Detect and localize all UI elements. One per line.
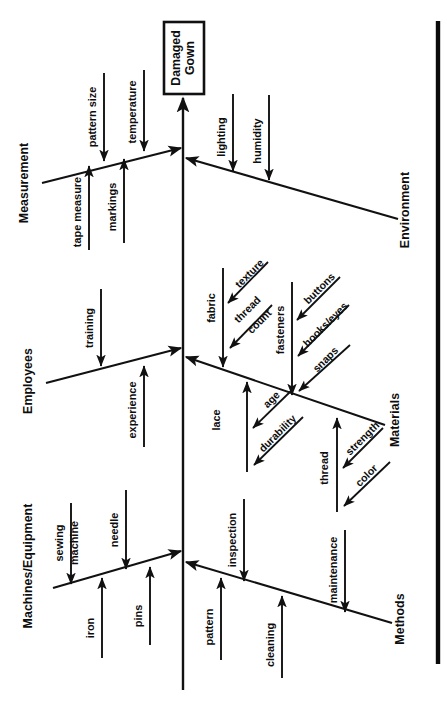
environment-label: Environment (398, 172, 412, 248)
cause-pins: pins (132, 605, 144, 627)
cause-training: training (83, 308, 95, 348)
cause-humidity: humidity (251, 118, 263, 163)
effect-label-line1: Damaged (169, 30, 183, 85)
methods-label: Methods (393, 593, 407, 644)
employees-label: Employees (21, 348, 35, 414)
cause-needle: needle (108, 513, 120, 548)
cause-pattern-size: pattern size (86, 87, 98, 148)
cause-pattern: pattern (203, 609, 215, 646)
cause-lighting: lighting (215, 117, 227, 156)
machines-label: Machines/Equipment (21, 504, 35, 629)
cause-maintenance: maintenance (327, 537, 339, 604)
cause-cleaning: cleaning (264, 623, 276, 667)
cause-iron: iron (84, 618, 96, 639)
measurement-label: Measurement (17, 143, 31, 223)
cause-lace: lace (210, 409, 222, 430)
cause-fasteners: fasteners (274, 306, 286, 354)
materials-label: Materials (388, 393, 402, 447)
cause-sewing-machine-line1: sewing (53, 525, 65, 562)
cause-fabric: fabric (205, 293, 217, 323)
effect-label-line2: Gown (183, 41, 197, 75)
cause-inspection: inspection (226, 513, 238, 567)
cause-experience: experience (126, 382, 138, 439)
effect-box: Damaged Gown (164, 22, 204, 94)
cause-sewing-machine-line2: machine (68, 521, 80, 565)
cause-temperature: temperature (126, 81, 138, 144)
cause-markings: markings (106, 183, 118, 231)
cause-tape-measure: tape measure (71, 177, 83, 247)
fishbone-diagram: Damaged Gown Measurement pattern size te… (0, 0, 447, 706)
cause-thread: thread (318, 451, 330, 484)
